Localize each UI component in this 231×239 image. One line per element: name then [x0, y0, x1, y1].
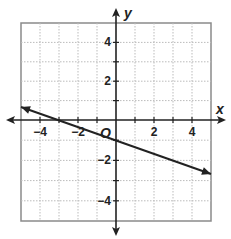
- coordinate-plane: −4−22442−2−4 x y O: [0, 0, 231, 239]
- y-tick-label: −4: [97, 194, 111, 208]
- line-start-arrow-icon: [21, 106, 31, 114]
- y-tick-label: −2: [97, 153, 111, 167]
- x-tick-label: 4: [189, 125, 196, 139]
- origin-label: O: [100, 125, 111, 141]
- y-tick-label: 4: [104, 35, 111, 49]
- x-tick-label: 2: [151, 125, 158, 139]
- x-tick-label: −4: [33, 125, 47, 139]
- x-axis-label: x: [215, 101, 225, 117]
- line-end-arrow-icon: [201, 167, 211, 175]
- y-axis-label: y: [123, 5, 133, 21]
- y-tick-label: 2: [104, 74, 111, 88]
